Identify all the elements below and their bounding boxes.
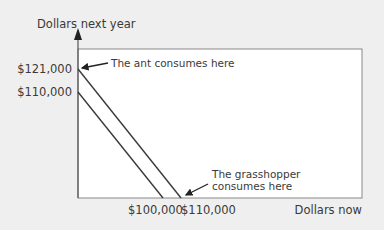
ant-annotation: The ant consumes here [111,57,235,69]
grasshopper-annotation-line1: The grasshopper [212,168,300,180]
grasshopper-annotation: The grasshopper consumes here [212,168,300,192]
grasshopper-annotation-line2: consumes here [212,180,300,192]
y-tick-110000: $110,000 [17,85,72,99]
chart-canvas [0,0,384,230]
x-tick-110000: $110,000 [181,203,236,217]
y-tick-121000: $121,000 [17,62,72,76]
y-axis-title: Dollars next year [37,17,136,31]
x-axis-title: Dollars now [295,203,362,217]
x-tick-100000: $100,000 [128,203,183,217]
